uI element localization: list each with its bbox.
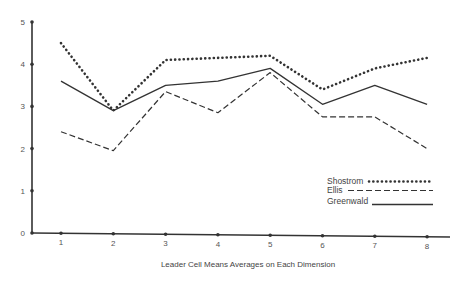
y-tick-label: 0: [21, 229, 26, 238]
y-tick-mark: [30, 189, 34, 193]
series-shostrom: [61, 43, 427, 111]
y-tick-mark: [30, 20, 34, 24]
y-tick-mark: [30, 231, 34, 235]
x-axis-line: [32, 233, 450, 237]
x-tick-mark: [112, 232, 116, 236]
data-series: [61, 43, 427, 151]
x-tick-label: 1: [59, 238, 64, 247]
series-greenwald: [61, 68, 427, 110]
legend-label-greenwald: Greenwald: [327, 196, 368, 206]
legend: ShostromEllisGreenwald: [327, 176, 433, 206]
series-ellis: [61, 73, 427, 151]
y-tick-mark: [30, 62, 34, 66]
y-tick-mark: [30, 105, 34, 109]
y-tick-mark: [30, 147, 34, 151]
x-tick-mark: [268, 233, 272, 237]
x-tick-mark: [59, 231, 63, 235]
x-tick-label: 8: [425, 242, 430, 251]
y-tick-label: 2: [21, 145, 26, 154]
x-tick-label: 6: [320, 241, 325, 250]
line-chart: 012345 12345678 Leader Cell Means Averag…: [0, 0, 464, 282]
x-axis-title: Leader Cell Means Averages on Each Dimen…: [161, 260, 335, 269]
x-tick-label: 5: [268, 240, 273, 249]
legend-label-ellis: Ellis: [327, 185, 343, 195]
x-tick-mark: [425, 235, 429, 239]
x-tick-mark: [216, 233, 220, 237]
y-tick-label: 4: [21, 60, 26, 69]
x-tick-mark: [321, 234, 325, 238]
x-tick-label: 2: [111, 239, 116, 248]
x-tick-label: 3: [163, 239, 168, 248]
y-tick-label: 1: [21, 187, 26, 196]
y-tick-label: 5: [21, 18, 26, 27]
x-tick-label: 7: [373, 241, 378, 250]
x-tick-mark: [373, 234, 377, 238]
x-tick-mark: [164, 232, 168, 236]
y-tick-label: 3: [21, 102, 26, 111]
x-tick-label: 4: [216, 240, 221, 249]
